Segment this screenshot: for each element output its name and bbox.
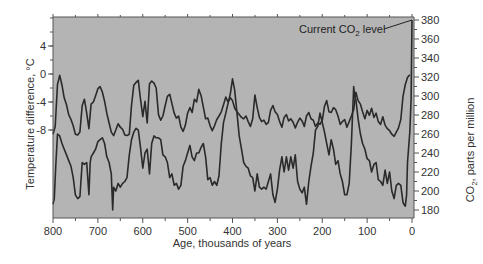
x-tick-label: 300	[268, 225, 286, 237]
left-tick-label: 4	[40, 40, 46, 52]
left-axis-title: Temperature difference, °C	[24, 58, 36, 189]
left-tick-label: 0	[40, 68, 46, 80]
right-axis-title: CO2, parts per million	[464, 98, 479, 203]
right-tick-label: 340	[421, 52, 439, 64]
right-tick-label: 280	[421, 109, 439, 121]
right-tick-label: 240	[421, 147, 439, 159]
x-tick-label: 100	[358, 225, 376, 237]
right-tick-label: 360	[421, 33, 439, 45]
x-tick-label: 800	[44, 225, 62, 237]
x-tick-label: 600	[134, 225, 152, 237]
right-tick-label: 300	[421, 90, 439, 102]
right-tick-label: 260	[421, 128, 439, 140]
x-tick-label: 500	[178, 225, 196, 237]
x-axis: 8007006005004003002001000	[44, 218, 415, 237]
right-y-axis: 380360340320300280260240220200180	[414, 14, 439, 216]
right-tick-label: 380	[421, 14, 439, 26]
x-tick-label: 400	[223, 225, 241, 237]
x-axis-title: Age, thousands of years	[173, 237, 292, 249]
temperature-co2-chart: 40-4-8 380360340320300280260240220200180…	[0, 0, 483, 264]
left-y-axis: 40-4-8	[36, 18, 53, 136]
right-tick-label: 180	[421, 204, 439, 216]
x-tick-label: 200	[313, 225, 331, 237]
x-tick-label: 700	[89, 225, 107, 237]
x-tick-label: 0	[409, 225, 415, 237]
right-tick-label: 220	[421, 166, 439, 178]
left-tick-label: -8	[36, 124, 46, 136]
right-tick-label: 200	[421, 185, 439, 197]
left-tick-label: -4	[36, 96, 46, 108]
right-tick-label: 320	[421, 71, 439, 83]
